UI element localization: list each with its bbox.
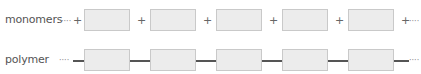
monomer-unit [150, 9, 196, 31]
polymer-unit [216, 49, 262, 71]
bond-line [394, 60, 409, 62]
leading-ellipsis: ···· [59, 57, 69, 65]
bond-line [73, 60, 84, 62]
bond-line [196, 60, 216, 62]
bond-line [130, 60, 150, 62]
polymer-unit [84, 49, 130, 71]
plus-sign: + [335, 15, 344, 26]
monomer-unit [282, 9, 328, 31]
polymer-unit [282, 49, 328, 71]
monomers-label: monomers [5, 13, 62, 26]
monomer-unit [348, 9, 394, 31]
trailing-ellipsis: ···· [409, 57, 419, 65]
monomer-unit [216, 9, 262, 31]
polymer-label: polymer [5, 53, 49, 66]
leading-ellipsis: ···· [61, 18, 71, 26]
plus-sign: + [137, 15, 146, 26]
monomer-unit [84, 9, 130, 31]
polymer-unit [150, 49, 196, 71]
trailing-ellipsis: ···· [409, 18, 419, 26]
plus-sign: + [203, 15, 212, 26]
bond-line [262, 60, 282, 62]
plus-sign: + [269, 15, 278, 26]
bond-line [328, 60, 348, 62]
plus-sign: + [73, 15, 82, 26]
polymer-unit [348, 49, 394, 71]
